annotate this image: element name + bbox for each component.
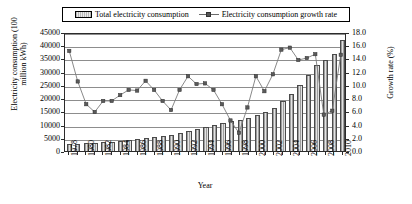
data-point-marker [322, 113, 325, 116]
y-axis-right-tick-label: 10.0 [352, 82, 382, 90]
plot-area [64, 33, 346, 152]
legend-entry-line: Electricity consumption growth rate [199, 11, 337, 19]
growth-rate-line-layer [65, 34, 345, 151]
x-axis-tick-mark [154, 152, 155, 155]
y-axis-left-tick-label: 20000 [20, 95, 60, 103]
y-axis-left-tick-mark [61, 73, 64, 74]
y-axis-left-tick-label: 25000 [20, 82, 60, 90]
data-point-marker [110, 99, 113, 102]
x-axis-tick-mark [145, 152, 146, 155]
x-axis-tick-mark [137, 152, 138, 155]
line-marker-swatch-icon [199, 11, 219, 18]
y-axis-right-tick-mark [346, 46, 349, 47]
y-axis-right-tick-label: 4.0 [352, 122, 382, 130]
y-axis-left-tick-label: 40000 [20, 42, 60, 50]
data-point-marker [101, 99, 104, 102]
x-axis-tick-mark [231, 152, 232, 155]
y-axis-left-tick-mark [61, 99, 64, 100]
x-axis-title: Year [64, 181, 346, 190]
data-point-marker [297, 58, 300, 61]
x-axis-tick-mark [333, 152, 334, 155]
x-axis-tick-label: 1978 [71, 140, 79, 156]
data-point-marker [203, 82, 206, 85]
x-axis-tick-label: 2008 [328, 140, 336, 156]
data-point-marker [271, 73, 274, 76]
data-point-marker [212, 88, 215, 91]
data-point-marker [152, 88, 155, 91]
y-axis-right-tick-mark [346, 112, 349, 113]
y-axis-left-tick-label: 0 [20, 148, 60, 156]
y-axis-left-tick-mark [61, 152, 64, 153]
data-point-marker [195, 82, 198, 85]
legend-entry-bars: Total electricity consumption [75, 11, 189, 19]
x-axis-tick-mark [120, 152, 121, 155]
y-axis-right-tick-label: 18.0 [352, 29, 382, 37]
x-axis-tick-mark [325, 152, 326, 155]
y-axis-right-tick-label: 6.0 [352, 108, 382, 116]
x-axis-tick-mark [162, 152, 163, 155]
data-point-marker [314, 52, 317, 55]
x-axis-tick-mark [316, 152, 317, 155]
x-axis-tick-label: 2002 [276, 140, 284, 156]
data-point-marker [186, 75, 189, 78]
y-axis-left-tick-mark [61, 46, 64, 47]
data-point-marker [178, 88, 181, 91]
y-axis-left-tick-label: 30000 [20, 69, 60, 77]
y-axis-right-tick-mark [346, 73, 349, 74]
x-axis-tick-mark [94, 152, 95, 155]
y-axis-left-tick-mark [61, 33, 64, 34]
x-axis-tick-label: 1990 [174, 140, 182, 156]
y-axis-left-tick-mark [61, 86, 64, 87]
data-point-marker [118, 93, 121, 96]
x-axis-tick-mark [265, 152, 266, 155]
x-axis-tick-label: 1980 [88, 140, 96, 156]
y-axis-left-tick-mark [61, 59, 64, 60]
x-axis-tick-label: 1992 [191, 140, 199, 156]
data-point-marker [229, 119, 232, 122]
x-axis-tick-label: 1984 [123, 140, 131, 156]
data-point-marker [288, 46, 291, 49]
x-axis-tick-label: 1998 [242, 140, 250, 156]
y-axis-left-tick-label: 5000 [20, 135, 60, 143]
y-axis-left-tick-label: 35000 [20, 55, 60, 63]
data-point-marker [169, 108, 172, 111]
y-axis-right-tick-mark [346, 33, 349, 34]
y-axis-right-tick-label: 14.0 [352, 55, 382, 63]
x-axis-tick-label: 1986 [140, 140, 148, 156]
y-axis-left-tick-mark [61, 126, 64, 127]
data-point-marker [76, 80, 79, 83]
x-axis-tick-mark [214, 152, 215, 155]
x-axis-tick-mark [248, 152, 249, 155]
x-axis-tick-mark [299, 152, 300, 155]
x-axis-tick-mark [282, 152, 283, 155]
data-point-marker [144, 79, 147, 82]
data-point-marker [305, 56, 308, 59]
x-axis-tick-label: 1982 [105, 140, 113, 156]
legend-label-bars: Total electricity consumption [95, 11, 189, 19]
electricity-consumption-chart: Total electricity consumption Electricit… [0, 0, 412, 204]
y-axis-right-tick-mark [346, 99, 349, 100]
x-axis-tick-mark [171, 152, 172, 155]
x-axis-tick-mark [179, 152, 180, 155]
data-point-marker [237, 131, 240, 134]
y-axis-right-tick-label: 16.0 [352, 42, 382, 50]
y-axis-left-tick-label: 15000 [20, 108, 60, 116]
chart-legend: Total electricity consumption Electricit… [62, 7, 350, 22]
y-axis-left-tick-label: 10000 [20, 122, 60, 130]
x-axis-tick-label: 1994 [208, 140, 216, 156]
x-axis-tick-mark [196, 152, 197, 155]
y-axis-right-title: Growth rate (%) [386, 28, 395, 118]
x-axis-tick-mark [205, 152, 206, 155]
x-axis-tick-mark [188, 152, 189, 155]
y-axis-left-tick-mark [61, 139, 64, 140]
data-point-marker [135, 89, 138, 92]
bar-swatch-icon [75, 11, 92, 18]
data-point-marker [68, 49, 71, 52]
x-axis-tick-mark [111, 152, 112, 155]
data-point-marker [93, 110, 96, 113]
x-axis-tick-mark [342, 152, 343, 155]
x-axis-tick-label: 1996 [225, 140, 233, 156]
x-axis-tick-label: 2010 [345, 140, 353, 156]
data-point-marker [331, 109, 334, 112]
y-axis-right-tick-mark [346, 126, 349, 127]
